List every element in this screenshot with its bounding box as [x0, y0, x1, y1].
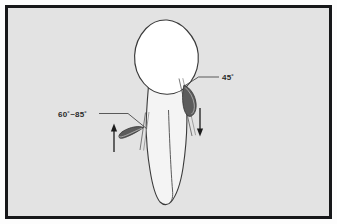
- annotation-angle-right: 45˚: [222, 73, 234, 82]
- arrow-right-down: [197, 108, 203, 137]
- arrow-left-up: [111, 124, 117, 153]
- figure-root: 60˚~85˚ 45˚: [0, 0, 337, 224]
- annotation-angle-left: 60˚~85˚: [58, 110, 87, 119]
- right-blade-instrument: [183, 85, 197, 116]
- tooth-root: [146, 86, 187, 205]
- tooth-angle-diagram: 60˚~85˚ 45˚: [0, 0, 337, 224]
